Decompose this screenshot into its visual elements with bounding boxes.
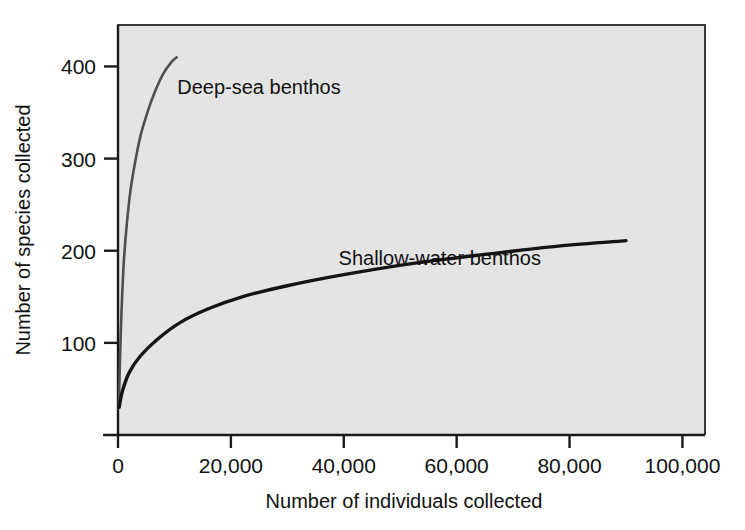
y-tick-label: 100 [61,332,96,355]
x-tick-label: 100,000 [644,454,720,477]
y-tick-label: 200 [61,240,96,263]
series-annotation-label: Shallow-water benthos [339,247,541,269]
x-axis-ticks [118,435,682,448]
x-tick-label: 20,000 [199,454,263,477]
y-axis-tick-labels: 100200300400 [61,55,96,354]
species-accumulation-chart: 020,00040,00060,00080,000100,000 1002003… [0,0,745,530]
x-axis-tick-labels: 020,00040,00060,00080,000100,000 [112,454,720,477]
series-annotation-label: Deep-sea benthos [177,76,340,98]
x-tick-label: 60,000 [425,454,489,477]
y-axis-title: Number of species collected [12,104,34,355]
x-tick-label: 40,000 [312,454,376,477]
x-tick-label: 0 [112,454,124,477]
figure-container: 020,00040,00060,00080,000100,000 1002003… [0,0,745,530]
x-tick-label: 80,000 [537,454,601,477]
y-tick-label: 300 [61,148,96,171]
y-tick-label: 400 [61,55,96,78]
y-axis-ticks [104,66,118,342]
x-axis-title: Number of individuals collected [266,490,543,512]
